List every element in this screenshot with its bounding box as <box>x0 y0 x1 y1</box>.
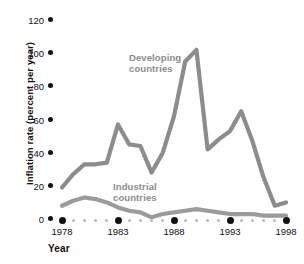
inflation-rate-chart: Inflation rate (percent per year) 120 10… <box>0 0 304 264</box>
x-tick-dot-minor-1982 <box>105 219 108 222</box>
x-tick-dot-minor-1996 <box>262 219 265 222</box>
x-tick-dot-minor-1984 <box>128 219 131 222</box>
x-tick-dot-minor-1997 <box>273 219 276 222</box>
x-axis-title: Year <box>48 243 70 254</box>
x-tick-dot-minor-1980 <box>83 219 86 222</box>
x-tick-dot-minor-1987 <box>161 219 164 222</box>
x-tick-label-1998: 1998 <box>269 226 303 237</box>
x-axis-ticks <box>0 0 304 264</box>
x-tick-dot-minor-1992 <box>217 219 220 222</box>
x-tick-dot-major-1993 <box>227 217 234 224</box>
x-tick-dot-minor-1986 <box>150 219 153 222</box>
x-tick-dot-minor-1981 <box>94 219 97 222</box>
x-tick-dot-major-1983 <box>115 217 122 224</box>
x-tick-dot-major-1978 <box>59 217 66 224</box>
x-tick-dot-minor-1990 <box>195 219 198 222</box>
x-tick-label-1978: 1978 <box>45 226 79 237</box>
x-tick-dot-minor-1995 <box>251 219 254 222</box>
x-tick-dot-minor-1994 <box>240 219 243 222</box>
x-tick-label-1988: 1988 <box>157 226 191 237</box>
x-tick-dot-minor-1979 <box>72 219 75 222</box>
x-tick-label-1983: 1983 <box>101 226 135 237</box>
x-tick-dot-minor-1989 <box>184 219 187 222</box>
x-tick-dot-minor-1985 <box>139 219 142 222</box>
x-tick-dot-minor-1991 <box>206 219 209 222</box>
x-tick-dot-major-1988 <box>171 217 178 224</box>
x-tick-dot-major-1998 <box>283 217 290 224</box>
x-tick-label-1993: 1993 <box>213 226 247 237</box>
